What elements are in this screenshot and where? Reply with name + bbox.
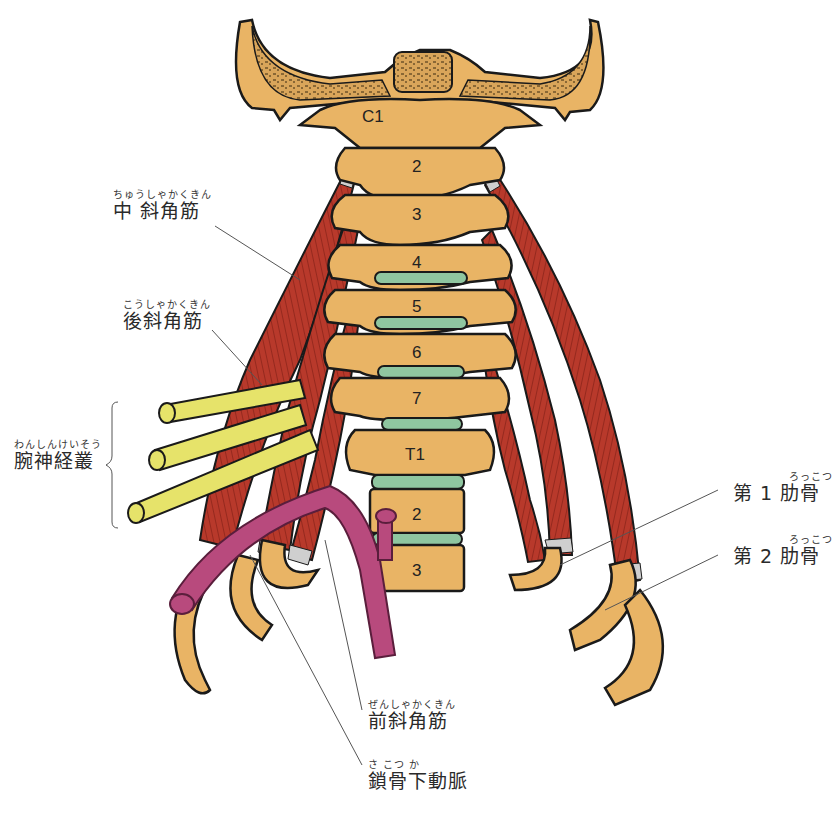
label-first-rib: ろっこつ 第 1 肋骨 <box>733 472 833 503</box>
vertebra-label-c5: 5 <box>412 297 421 316</box>
left-ribs <box>175 540 318 693</box>
ruby-subclavian-artery: さ こつ か <box>368 760 468 770</box>
vertebra-label-c7: 7 <box>412 389 421 408</box>
vertebra-label-t1: T1 <box>405 445 425 464</box>
ruby-brachial-plexus: わんしんけいそう <box>14 440 102 450</box>
vertebra-label-c3: 3 <box>412 205 421 224</box>
label-subclavian-artery: さ こつ か 鎖骨下動脈 <box>368 760 468 791</box>
vertebra-label-t2: 2 <box>412 505 421 524</box>
text-anterior-scalene: 前斜角筋 <box>368 712 456 731</box>
label-middle-scalene: ちゅうしゃかくきん 中 斜角筋 <box>113 190 212 221</box>
label-anterior-scalene: ぜんしゃかくきん 前斜角筋 <box>368 700 456 731</box>
text-second-rib: 第 2 肋骨 <box>733 547 833 566</box>
text-first-rib: 第 1 肋骨 <box>733 484 833 503</box>
ruby-anterior-scalene: ぜんしゃかくきん <box>368 700 456 710</box>
text-middle-scalene: 中 斜角筋 <box>113 202 212 221</box>
vertebra-label-c2: 2 <box>412 157 421 176</box>
right-scalene-muscles <box>482 172 642 585</box>
vertebra-label-t3: 3 <box>412 561 421 580</box>
ruby-second-rib: ろっこつ <box>733 535 833 545</box>
vertebra-label-c6: 6 <box>412 343 421 362</box>
label-posterior-scalene: こうしゃかくきん 後斜角筋 <box>123 300 211 331</box>
text-brachial-plexus: 腕神経叢 <box>14 452 102 471</box>
vertebra-label-c4: 4 <box>412 253 421 272</box>
ruby-posterior-scalene: こうしゃかくきん <box>123 300 211 310</box>
brachial-plexus-bracket <box>106 402 118 528</box>
text-subclavian-artery: 鎖骨下動脈 <box>368 772 468 791</box>
vertebra-label-c1: C1 <box>362 107 384 126</box>
label-brachial-plexus: わんしんけいそう 腕神経叢 <box>14 440 102 471</box>
label-second-rib: ろっこつ 第 2 肋骨 <box>733 535 833 566</box>
ruby-first-rib: ろっこつ <box>733 472 833 482</box>
ruby-middle-scalene: ちゅうしゃかくきん <box>113 190 212 200</box>
text-posterior-scalene: 後斜角筋 <box>123 312 211 331</box>
